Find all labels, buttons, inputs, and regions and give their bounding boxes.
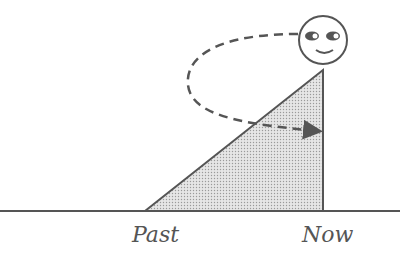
shaded-triangle <box>145 70 323 211</box>
label-past: Past <box>131 222 179 247</box>
stick-figure-head <box>299 16 347 64</box>
label-now: Now <box>301 222 353 247</box>
past-now-diagram: Past Now <box>0 0 400 254</box>
